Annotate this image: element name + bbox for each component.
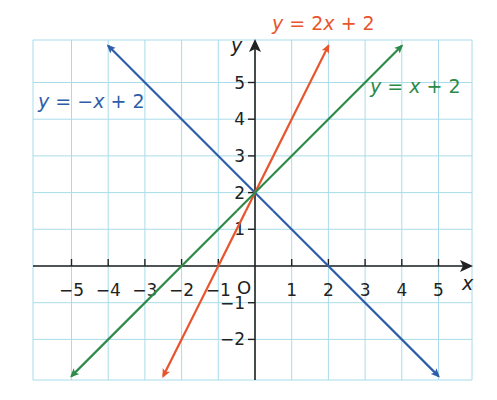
series-line [237, 46, 402, 211]
x-tick-label: −4 [96, 280, 121, 300]
series-line [246, 46, 329, 211]
series-labels: y = −x + 2y = 2x + 2y = x + 2 [37, 12, 461, 112]
x-tick-label: −3 [132, 280, 157, 300]
origin-label: O [237, 277, 251, 298]
series-line [273, 211, 438, 376]
x-tick-label: 5 [433, 280, 444, 300]
series-label: y = 2x + 2 [271, 12, 375, 34]
x-axis-label: x [461, 272, 474, 294]
x-tick-label: 2 [323, 280, 334, 300]
series-label: y = −x + 2 [37, 90, 145, 112]
axis-ticks: −5−4−3−2−112345−2−112345 [59, 73, 444, 350]
x-tick-label: 4 [396, 280, 407, 300]
x-tick-label: 1 [286, 280, 297, 300]
y-tick-label: 4 [234, 109, 245, 129]
axis-labels: xyO [230, 34, 474, 298]
x-tick-label: 3 [360, 280, 371, 300]
series-line [108, 46, 273, 211]
y-tick-label: 2 [234, 183, 245, 203]
y-tick-label: 3 [234, 146, 245, 166]
y-tick-label: 5 [234, 73, 245, 93]
x-tick-label: −2 [169, 280, 194, 300]
line-graph: −5−4−3−2−112345−2−112345 xyO y = −x + 2y… [0, 0, 497, 400]
x-tick-label: −5 [59, 280, 84, 300]
series-label: y = x + 2 [369, 75, 461, 97]
y-tick-label: −2 [220, 329, 245, 349]
y-axis-label: y [230, 34, 243, 56]
